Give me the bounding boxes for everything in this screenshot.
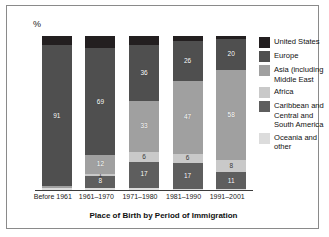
bar-segment: 6	[173, 154, 203, 163]
segment-value-label: 8	[229, 163, 233, 170]
legend-swatch-icon	[259, 37, 270, 48]
bar-segment: 12	[85, 155, 115, 174]
bar-segment: 69	[85, 48, 115, 155]
legend-swatch-icon	[259, 51, 270, 62]
bar-segment: 91	[42, 45, 72, 186]
legend-swatch-icon	[259, 65, 270, 76]
x-axis-labels: Before 19611961–19701971–19801981–199019…	[31, 193, 259, 205]
bar-column[interactable]: 811269	[85, 36, 115, 191]
bar-column[interactable]: 1763336	[129, 36, 159, 191]
chart-legend: United StatesEuropeAsia (including Middl…	[259, 37, 329, 155]
segment-value-label: 11	[228, 178, 235, 185]
segment-value-label: 20	[228, 51, 235, 58]
segment-value-label: 91	[53, 113, 60, 120]
bar-segment: 11	[216, 172, 246, 189]
segment-value-label: 17	[140, 171, 147, 178]
legend-swatch-icon	[259, 87, 270, 98]
bar-segment	[42, 186, 72, 188]
segment-value-label: 6	[142, 154, 146, 161]
bar-segment: 36	[129, 45, 159, 101]
legend-item[interactable]: Asia (including Middle East	[259, 65, 329, 84]
bar-segment: 26	[173, 41, 203, 81]
bar-segment: 17	[173, 163, 203, 189]
bar-segment	[42, 36, 72, 45]
segment-value-label: 17	[184, 173, 191, 180]
bar-segment: 58	[216, 70, 246, 160]
legend-item-label: United States	[274, 37, 320, 47]
bar-column[interactable]: 1185820	[216, 36, 246, 191]
legend-item[interactable]: United States	[259, 37, 329, 48]
legend-item-label: Caribbean and Central and South America	[274, 101, 329, 130]
bar-segment: 17	[129, 162, 159, 188]
legend-item[interactable]: Europe	[259, 51, 329, 62]
x-axis-tick-label: 1991–2001	[205, 193, 249, 200]
x-axis-tick-label: 1981–1990	[162, 193, 206, 200]
segment-value-label: 12	[97, 161, 104, 168]
segment-value-label: 36	[140, 70, 147, 77]
legend-item[interactable]: Africa	[259, 87, 329, 98]
segment-value-label: 6	[186, 155, 190, 162]
segment-value-label: 58	[228, 112, 235, 119]
legend-item[interactable]: Oceania and other	[259, 133, 329, 152]
bar-segment	[216, 36, 246, 39]
legend-item[interactable]: Caribbean and Central and South America	[259, 101, 329, 130]
segment-value-label: 69	[97, 99, 104, 106]
bar-segment: 1	[85, 174, 115, 176]
bar-column[interactable]: 91	[42, 36, 72, 191]
x-axis-tick-label: 1971–1980	[118, 193, 162, 200]
bar-segment: 47	[173, 81, 203, 154]
legend-swatch-icon	[259, 101, 270, 112]
bar-segment: 33	[129, 101, 159, 152]
segment-value-label: 8	[99, 178, 103, 185]
y-axis-unit-label: %	[33, 19, 41, 29]
bar-segment	[129, 36, 159, 45]
x-axis-tick-label: 1961–1970	[75, 193, 119, 200]
bar-segment: 20	[216, 39, 246, 70]
bar-segment: 6	[129, 152, 159, 161]
x-axis-line	[35, 190, 253, 191]
chart-frame: % 91811269176333617647261185820 Before 1…	[6, 5, 319, 229]
legend-item-label: Asia (including Middle East	[274, 65, 329, 84]
legend-item-label: Africa	[274, 87, 293, 97]
bar-segment	[173, 36, 203, 41]
segment-value-label: 47	[184, 114, 191, 121]
chart-caption: Place of Birth by Period of Immigration	[7, 211, 320, 220]
x-axis-tick-label: Before 1961	[31, 193, 75, 200]
bar-segment	[85, 36, 115, 48]
legend-item-label: Europe	[274, 51, 299, 61]
segment-value-label: 26	[184, 58, 191, 65]
bar-column[interactable]: 1764726	[173, 36, 203, 191]
segment-value-label: 33	[140, 123, 147, 130]
legend-item-label: Oceania and other	[274, 133, 329, 152]
bar-segment: 8	[216, 160, 246, 172]
plot-area: 91811269176333617647261185820	[35, 36, 253, 191]
legend-swatch-icon	[259, 133, 270, 144]
